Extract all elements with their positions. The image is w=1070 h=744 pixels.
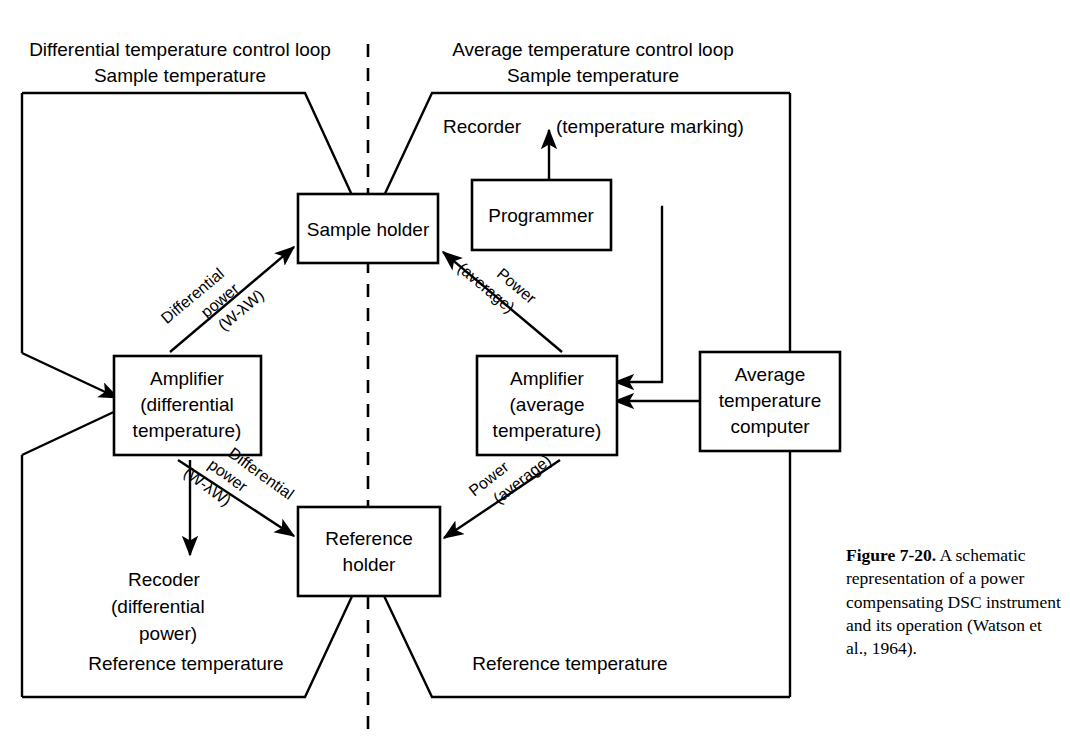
label-avg-temp-computer-line2: temperature: [719, 390, 821, 411]
footer-right-reference-temperature: Reference temperature: [472, 653, 667, 674]
label-amplifier-differential-line3: temperature): [133, 420, 242, 441]
label-differential-power-upper: Differential power (W-λW): [158, 254, 267, 359]
label-power-average-upper: Power (average): [454, 243, 539, 323]
label-recoder-differential-power-line2: (differential: [111, 596, 205, 617]
header-right-loop-subtitle: Sample temperature: [507, 65, 679, 86]
figure-caption-number: Figure 7-20.: [846, 545, 936, 565]
figure-container: Differential temperature control loop Sa…: [0, 0, 1070, 744]
arrow-programmer-to-ampavg: [615, 207, 662, 382]
label-recorder: Recorder: [443, 116, 522, 137]
label-amplifier-average-line3: temperature): [493, 420, 602, 441]
figure-caption: Figure 7-20. A schematic representation …: [846, 544, 1062, 660]
box-reference-holder[interactable]: [298, 507, 440, 596]
label-avg-temp-computer-line1: Average: [735, 364, 805, 385]
label-recoder-differential-power-line1: Recoder: [128, 569, 200, 590]
label-amplifier-average-line2: (average: [510, 394, 585, 415]
label-recoder-differential-power-line3: power): [139, 623, 197, 644]
label-reference-holder-line2: holder: [343, 554, 396, 575]
label-sample-holder: Sample holder: [307, 219, 430, 240]
header-right-loop-title: Average temperature control loop: [452, 39, 734, 60]
label-amplifier-average-line1: Amplifier: [510, 368, 585, 389]
footer-left-reference-temperature: Reference temperature: [88, 653, 283, 674]
label-amplifier-differential-line2: (differential: [140, 394, 234, 415]
label-programmer: Programmer: [488, 205, 594, 226]
header-left-loop-title: Differential temperature control loop: [29, 39, 331, 60]
label-temperature-marking: (temperature marking): [556, 116, 744, 137]
header-left-loop-subtitle: Sample temperature: [94, 65, 266, 86]
label-avg-temp-computer-line3: computer: [730, 416, 810, 437]
label-amplifier-differential-line1: Amplifier: [150, 368, 225, 389]
label-reference-holder-line1: Reference: [325, 528, 413, 549]
